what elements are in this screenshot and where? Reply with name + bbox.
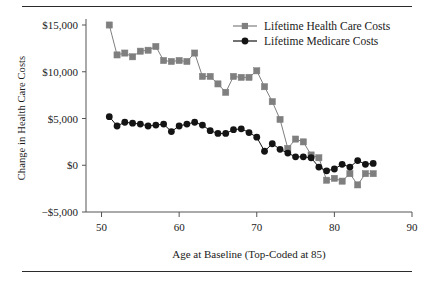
data-point — [114, 52, 120, 58]
data-point — [354, 157, 361, 164]
data-point — [238, 125, 245, 132]
data-point — [300, 153, 307, 160]
y-tick-label: $15,000 — [42, 19, 78, 31]
data-point — [106, 22, 112, 28]
data-point — [106, 113, 113, 120]
data-point — [153, 43, 159, 49]
figure-container: Change in Health Care Costs Age at Basel… — [0, 0, 434, 282]
data-point — [238, 74, 244, 80]
x-tick-label: 80 — [329, 221, 341, 233]
data-point — [362, 171, 368, 177]
data-point — [253, 134, 260, 141]
data-point — [160, 121, 167, 128]
data-point — [192, 50, 198, 56]
legend-marker-square — [242, 23, 248, 29]
x-tick-label: 90 — [407, 221, 419, 233]
legend-label: Lifetime Health Care Costs — [264, 20, 391, 32]
data-point — [331, 166, 338, 173]
data-point — [168, 128, 175, 135]
data-point — [223, 89, 229, 95]
data-point — [152, 122, 159, 129]
y-tick-label: $10,000 — [42, 66, 78, 78]
data-point — [122, 50, 128, 56]
chart-canvas: Change in Health Care Costs Age at Basel… — [0, 0, 434, 282]
data-point — [246, 74, 252, 80]
legend-label: Lifetime Medicare Costs — [264, 35, 379, 47]
data-point — [121, 119, 128, 126]
data-point — [191, 119, 198, 126]
data-point — [161, 57, 167, 63]
data-point — [284, 150, 291, 157]
x-axis-title: Age at Baseline (Top-Coded at 85) — [172, 248, 326, 261]
legend-marker-circle — [242, 38, 249, 45]
data-point — [323, 167, 330, 174]
data-point — [347, 171, 353, 177]
data-point — [199, 73, 205, 79]
data-point — [137, 121, 144, 128]
data-point — [261, 148, 268, 155]
data-point — [207, 73, 213, 79]
chart-legend: Lifetime Health Care CostsLifetime Medic… — [233, 20, 391, 47]
data-point — [277, 116, 283, 122]
series-lifetime-medicare-costs — [106, 113, 377, 174]
data-point — [199, 122, 206, 129]
data-point — [184, 58, 190, 64]
data-point — [137, 48, 143, 54]
data-point — [292, 136, 298, 142]
data-point — [222, 130, 229, 137]
x-tick-label: 60 — [174, 221, 186, 233]
data-point — [129, 120, 136, 127]
data-point — [230, 73, 236, 79]
data-point — [315, 164, 322, 171]
data-point — [339, 161, 346, 168]
data-point — [269, 140, 276, 147]
data-point — [145, 123, 152, 130]
data-point — [145, 47, 151, 53]
y-tick-label: $5,000 — [48, 113, 79, 125]
data-point — [254, 68, 260, 74]
data-point — [129, 54, 135, 60]
data-point — [269, 99, 275, 105]
data-point — [215, 130, 222, 137]
data-point — [370, 160, 377, 167]
data-point — [176, 57, 182, 63]
y-axis-title: Change in Health Care Costs — [16, 56, 27, 181]
x-tick-label: 70 — [251, 221, 263, 233]
data-point — [207, 127, 214, 134]
x-tick-labels: 5060708090 — [96, 221, 418, 233]
data-point — [316, 155, 322, 161]
data-point — [114, 123, 121, 130]
data-point — [300, 139, 306, 145]
axis-lines — [86, 19, 412, 212]
data-point — [230, 126, 237, 133]
data-point — [168, 58, 174, 64]
data-point — [362, 161, 369, 168]
y-tick-label: $0 — [67, 159, 79, 171]
data-point — [215, 81, 221, 87]
data-point — [261, 84, 267, 90]
data-point — [370, 171, 376, 177]
y-tick-labels: −$5,000$0$5,000$10,000$15,000 — [42, 19, 79, 218]
y-tick-label: −$5,000 — [42, 206, 79, 218]
data-point — [308, 154, 315, 161]
data-point — [347, 164, 354, 171]
data-point — [324, 177, 330, 183]
data-point — [339, 178, 345, 184]
data-point — [355, 182, 361, 188]
data-point — [176, 123, 183, 130]
data-point — [331, 175, 337, 181]
data-point — [277, 146, 284, 153]
data-point — [292, 153, 299, 160]
x-tick-label: 50 — [96, 221, 108, 233]
data-point — [184, 121, 191, 128]
data-point — [246, 129, 253, 136]
